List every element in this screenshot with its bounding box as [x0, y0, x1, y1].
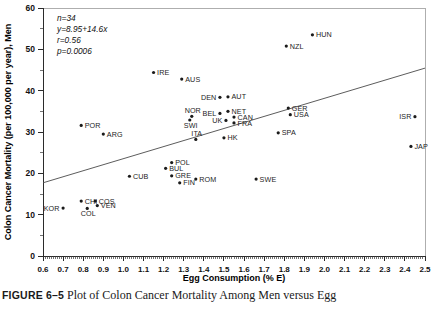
plot-frame [43, 8, 425, 256]
point-marker [190, 115, 193, 118]
data-point: HK [222, 133, 237, 142]
data-point: IRE [152, 68, 169, 77]
point-label: HUN [316, 30, 332, 39]
point-label: KOR [44, 204, 60, 213]
point-marker [180, 77, 183, 80]
point-marker [226, 110, 229, 113]
svg-text:y=8.95+14.6x: y=8.95+14.6x [56, 24, 108, 34]
point-label: VEN [101, 201, 116, 210]
point-marker [285, 44, 288, 47]
scatter-plot: 0102030405060 0.60.70.80.91.01.11.21.31.… [0, 0, 437, 285]
data-point: FRA [232, 119, 252, 128]
data-point: SWE [255, 175, 277, 184]
y-tick-label: 60 [26, 3, 36, 13]
point-label: AUT [231, 92, 246, 101]
point-marker [194, 138, 197, 141]
point-label: POR [85, 121, 101, 130]
point-marker [152, 71, 155, 74]
point-label: NOR [185, 106, 201, 115]
point-marker [194, 178, 197, 181]
y-tick-label: 30 [26, 127, 36, 137]
point-marker [311, 33, 314, 36]
point-marker [226, 95, 229, 98]
point-label: IRE [157, 68, 169, 77]
caption-label: FIGURE 6–5 [2, 289, 64, 301]
point-marker [178, 181, 181, 184]
point-marker [232, 121, 235, 124]
point-label: FRA [238, 119, 253, 128]
point-marker [96, 204, 99, 207]
svg-text:r=0.56: r=0.56 [57, 35, 81, 45]
x-tick-label: 0.6 [37, 265, 49, 274]
point-marker [413, 115, 416, 118]
data-point: AUT [226, 92, 246, 101]
data-point: UK [212, 116, 227, 125]
y-tick-label: 10 [26, 210, 36, 220]
data-point: ISR [399, 112, 416, 121]
point-label: ISR [399, 112, 411, 121]
point-label: COL [81, 209, 96, 218]
point-label: JAP [414, 142, 428, 151]
point-marker [102, 132, 105, 135]
data-point: POR [80, 121, 101, 130]
y-tick-label: 50 [26, 44, 36, 54]
point-marker [218, 112, 221, 115]
data-point: JAP [409, 142, 428, 151]
data-point: AUS [180, 75, 200, 84]
data-point: ITA [191, 129, 202, 141]
point-marker [164, 167, 167, 170]
x-axis-title: Egg Consumption (% E) [183, 273, 286, 283]
point-marker [232, 116, 235, 119]
svg-text:p=0.0006: p=0.0006 [56, 46, 92, 56]
data-point: SPA [277, 128, 296, 137]
y-axis: 0102030405060 [26, 3, 43, 261]
point-marker [409, 145, 412, 148]
data-point: HUN [311, 30, 332, 39]
point-marker [94, 199, 97, 202]
x-tick-label: 0.8 [78, 265, 90, 274]
data-point: ROM [194, 175, 216, 184]
x-tick-label: 0.9 [98, 265, 110, 274]
y-tick-label: 40 [26, 86, 36, 96]
data-point: NZL [285, 42, 304, 51]
point-label: FIN [183, 178, 195, 187]
point-label: ARG [107, 130, 123, 139]
x-tick-label: 2.5 [419, 265, 431, 274]
x-tick-label: 0.7 [58, 265, 70, 274]
point-marker [170, 174, 173, 177]
stat-p: p=0.0006 [56, 46, 92, 56]
svg-text:n=34: n=34 [57, 13, 76, 23]
x-tick-label: 1.0 [118, 265, 130, 274]
stat-equation: y=8.95+14.6x [56, 24, 108, 34]
point-label: UK [212, 116, 222, 125]
caption-text: Plot of Colon Cancer Mortality Among Men… [67, 288, 336, 302]
point-label: AUS [185, 75, 200, 84]
point-marker [222, 136, 225, 139]
point-marker [218, 96, 221, 99]
point-label: DEN [201, 93, 216, 102]
x-tick-label: 1.9 [299, 265, 311, 274]
x-tick-label: 1.2 [158, 265, 170, 274]
data-point: ARG [102, 130, 123, 139]
point-marker [287, 106, 290, 109]
data-point: NOR [185, 106, 201, 118]
stat-r: r=0.56 [57, 35, 81, 45]
point-marker [224, 119, 227, 122]
point-label: CUB [133, 172, 149, 181]
point-marker [128, 175, 131, 178]
point-marker [62, 206, 65, 209]
stat-n: n=34 [57, 13, 76, 23]
x-tick-label: 2.1 [339, 265, 351, 274]
point-marker [80, 124, 83, 127]
point-label: SWE [260, 175, 277, 184]
point-label: SPA [282, 128, 296, 137]
y-tick-label: 20 [26, 168, 36, 178]
point-label: NZL [290, 42, 304, 51]
y-tick-label: 0 [30, 251, 35, 261]
point-label: ITA [191, 129, 202, 138]
data-point: CUB [128, 172, 149, 181]
point-label: HK [227, 133, 237, 142]
x-tick-label: 2.2 [359, 265, 371, 274]
data-point: KOR [44, 204, 65, 213]
figure-caption: FIGURE 6–5 Plot of Colon Cancer Mortalit… [2, 288, 435, 303]
